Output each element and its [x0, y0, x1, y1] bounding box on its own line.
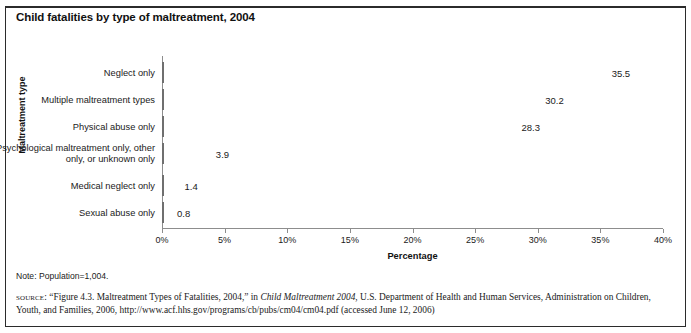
x-axis-tick-label: 30% [529, 235, 547, 245]
category-label: Sexual abuse only [0, 207, 155, 218]
bar-value-label: 30.2 [545, 94, 564, 105]
x-axis-tick-label: 40% [654, 235, 672, 245]
x-axis-tick [538, 229, 539, 233]
x-axis-tick [287, 229, 288, 233]
category-label: Medical neglect only [0, 180, 155, 191]
x-axis-tick-label: 10% [278, 235, 296, 245]
bar-value-label: 3.9 [216, 148, 229, 159]
bar [162, 143, 164, 164]
x-axis-tick-label: 25% [466, 235, 484, 245]
bar [162, 62, 164, 83]
x-axis-tick [225, 229, 226, 233]
x-axis-tick [413, 229, 414, 233]
bar-value-label: 28.3 [521, 121, 540, 132]
bar [162, 116, 164, 137]
bar-value-label: 1.4 [185, 180, 198, 191]
source-citation: source: “Figure 4.3. Maltreatment Types … [16, 291, 676, 316]
chart-title: Child fatalities by type of maltreatment… [16, 11, 255, 23]
category-label: Multiple maltreatment types [0, 94, 155, 105]
category-label: Physical abuse only [0, 121, 155, 132]
x-axis-tick-label: 35% [591, 235, 609, 245]
bar-row: Neglect only35.5 [162, 62, 607, 83]
x-axis-tick [475, 229, 476, 233]
x-axis-title: Percentage [162, 251, 663, 261]
x-axis-tick [600, 229, 601, 233]
bar-row: Psychological maltreatment only, other o… [162, 143, 211, 164]
x-axis-tick-label: 15% [341, 235, 359, 245]
category-label: Neglect only [0, 67, 155, 78]
bar [162, 89, 164, 110]
note-line: Note: Population=1,004. [16, 271, 108, 281]
bar-row: Sexual abuse only0.8 [162, 202, 172, 223]
source-title-italic: Child Maltreatment 2004 [260, 292, 355, 302]
source-label: source: [16, 292, 47, 302]
bar-row: Physical abuse only28.3 [162, 116, 516, 137]
bar-row: Medical neglect only1.4 [162, 175, 180, 196]
x-axis-tick-label: 0% [155, 235, 168, 245]
bar [162, 175, 164, 196]
chart-plot-region: Maltreatment type Neglect only35.5Multip… [0, 52, 691, 262]
source-text-part1: “Figure 4.3. Maltreatment Types of Fatal… [49, 292, 260, 302]
x-axis-tick [663, 229, 664, 233]
bar-row: Multiple maltreatment types30.2 [162, 89, 540, 110]
x-axis-tick [350, 229, 351, 233]
x-axis-tick-label: 5% [218, 235, 231, 245]
bar [162, 202, 164, 223]
category-label: Psychological maltreatment only, other o… [0, 143, 155, 165]
bars-container: Neglect only35.5Multiple maltreatment ty… [162, 56, 663, 228]
bar-value-label: 35.5 [612, 67, 631, 78]
x-axis-tick [162, 229, 163, 233]
bar-value-label: 0.8 [177, 207, 190, 218]
x-axis-tick-label: 20% [403, 235, 421, 245]
